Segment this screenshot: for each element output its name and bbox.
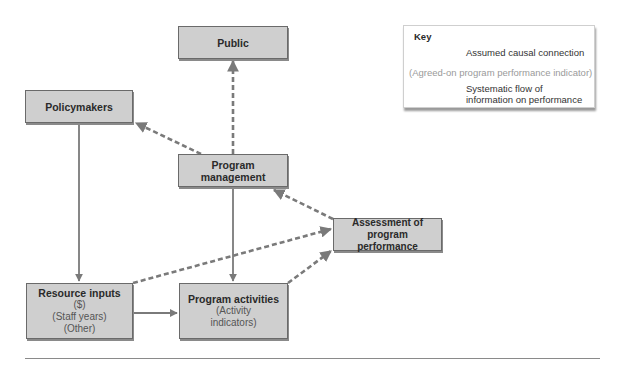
bottom-rule bbox=[25, 358, 600, 359]
node-resource-inputs: Resource inputs ($) (Staff years) (Other… bbox=[26, 283, 133, 339]
node-program-activities-title: Program activities bbox=[188, 293, 279, 305]
legend-solid-label: Assumed causal connection bbox=[466, 47, 584, 58]
node-resource-inputs-line-1: ($) bbox=[73, 299, 85, 311]
node-public: Public bbox=[178, 26, 288, 59]
legend-dashed-label-line-2: information on performance bbox=[466, 94, 582, 105]
legend-key: Key Assumed causal connection (Agreed-on… bbox=[403, 25, 595, 108]
legend-dashed-label: Systematic flow of information on perfor… bbox=[466, 83, 582, 105]
node-public-title: Public bbox=[217, 37, 249, 49]
node-assessment-title: Assessment of program performance bbox=[336, 217, 439, 253]
edge-inputs-to-assessment bbox=[133, 229, 331, 283]
node-program-activities-line-1: (Activity bbox=[216, 305, 251, 317]
node-program-activities: Program activities (Activity indicators) bbox=[179, 283, 288, 339]
legend-title: Key bbox=[414, 31, 431, 42]
edge-management-to-policymakers bbox=[136, 123, 201, 154]
node-program-management: Program management bbox=[178, 154, 288, 187]
node-resource-inputs-line-3: (Other) bbox=[64, 323, 96, 335]
node-resource-inputs-line-2: (Staff years) bbox=[52, 311, 106, 323]
node-resource-inputs-title: Resource inputs bbox=[38, 287, 120, 299]
node-program-activities-line-2: indicators) bbox=[210, 317, 256, 329]
node-policymakers: Policymakers bbox=[25, 90, 133, 123]
node-assessment: Assessment of program performance bbox=[333, 218, 442, 251]
edge-activities-to-assessment bbox=[288, 251, 331, 283]
node-policymakers-title: Policymakers bbox=[45, 101, 113, 113]
edge-assessment-to-management bbox=[274, 190, 333, 219]
legend-indicator-label: (Agreed-on program performance indicator… bbox=[409, 67, 592, 78]
node-program-management-title: Program management bbox=[201, 159, 266, 183]
legend-dashed-label-line-1: Systematic flow of bbox=[466, 83, 543, 94]
